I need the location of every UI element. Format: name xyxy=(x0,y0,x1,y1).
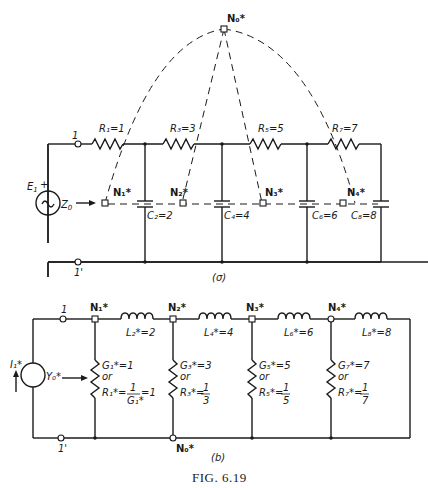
conductance-g3 xyxy=(169,360,177,398)
svg-text:G₃*=3: G₃*=3 xyxy=(180,360,212,371)
capacitor-c2-label: C₂=2 xyxy=(147,210,173,221)
svg-text:R₅*=: R₅*= xyxy=(259,387,283,398)
node-n0-b-label: N₀* xyxy=(176,443,195,454)
dual-node-n3-label: N₃* xyxy=(265,187,284,198)
dual-node-n0-label: N₀* xyxy=(227,13,246,24)
dual-node-n1-label: N₁* xyxy=(113,187,132,198)
terminal-1-b xyxy=(60,316,66,322)
figure-6-19: 1 1' E1 + Z0 N₀* N₁* N₂* N₃* xyxy=(0,0,428,488)
dual-node-n0-a xyxy=(221,26,227,32)
node-n2-b-label: N₂* xyxy=(168,302,187,313)
branch-label-g3: G₃*=3 or R₃*= 1 3 xyxy=(180,360,212,406)
capacitor-c6-label: C₆=6 xyxy=(312,210,338,221)
dual-node-n3-a xyxy=(260,200,266,206)
node-n4-b-label: N₄* xyxy=(328,302,347,313)
inductor-l4-label: L₄*=4 xyxy=(204,327,233,338)
svg-text:G₇*=7: G₇*=7 xyxy=(338,360,370,371)
capacitor-c8-label: C₈=8 xyxy=(351,210,377,221)
inductor-l4 xyxy=(199,313,231,319)
dual-node-n4-a xyxy=(340,200,346,206)
resistor-r1 xyxy=(92,139,123,149)
circuit-b-label: (b) xyxy=(211,452,225,463)
node-n0-b xyxy=(170,435,176,441)
circuit-b: 1 1' N₁* N₂* N₃* N₄* N₀* L₂*=2 L₄*=4 L₆*… xyxy=(10,302,410,463)
node-n1-b-label: N₁* xyxy=(90,302,109,313)
svg-text:=1: =1 xyxy=(141,387,156,398)
resistor-r7-label: R₇=7 xyxy=(332,123,358,134)
svg-text:G₅*=5: G₅*=5 xyxy=(259,360,291,371)
impedance-z0-label: Z0 xyxy=(60,199,73,212)
svg-text:1: 1 xyxy=(283,382,289,393)
branch-label-g1: G₁*=1 or R₁*= 1 G₁* =1 xyxy=(102,360,156,406)
svg-text:1: 1 xyxy=(362,382,368,393)
inductor-l6 xyxy=(278,313,310,319)
current-source-i1 xyxy=(21,363,45,387)
resistor-r3-label: R₃=3 xyxy=(170,123,196,134)
node-n1-b xyxy=(92,316,98,322)
resistor-r5-label: R₅=5 xyxy=(258,123,284,134)
circuit-a: 1 1' E1 + Z0 N₀* N₁* N₂* N₃* xyxy=(27,13,428,283)
svg-text:or: or xyxy=(180,371,191,382)
terminal-1prime-b xyxy=(58,435,64,441)
inductor-l8 xyxy=(355,313,387,319)
inductor-l2-label: L₂*=2 xyxy=(126,327,155,338)
inductor-l6-label: L₆*=6 xyxy=(284,327,313,338)
branch-label-g7: G₇*=7 or R₇*= 1 7 xyxy=(338,360,370,406)
svg-text:5: 5 xyxy=(283,395,289,406)
svg-text:R₃*=: R₃*= xyxy=(180,387,204,398)
svg-text:R₁*=: R₁*= xyxy=(102,387,126,398)
dual-node-n2-label: N₂* xyxy=(170,187,189,198)
branch-label-g5: G₅*=5 or R₅*= 1 5 xyxy=(259,360,291,406)
resistor-r5 xyxy=(250,139,281,149)
source-polarity-plus: + xyxy=(40,179,48,190)
node-n3-b xyxy=(249,316,255,322)
svg-text:1: 1 xyxy=(203,382,209,393)
conductance-g1 xyxy=(91,360,99,398)
svg-text:1: 1 xyxy=(130,382,136,393)
node-n2-b xyxy=(170,316,176,322)
admittance-y0-label: Y₀* xyxy=(46,371,61,382)
conductance-g7 xyxy=(327,360,335,398)
svg-text:R₇*=: R₇*= xyxy=(338,387,362,398)
source-e1-label: E1 xyxy=(27,181,38,194)
dual-node-n1-a xyxy=(102,200,108,206)
conductance-g5 xyxy=(248,360,256,398)
svg-text:or: or xyxy=(102,371,113,382)
terminal-1-b-label: 1 xyxy=(61,304,67,315)
inductor-l8-label: L₈*=8 xyxy=(362,327,391,338)
inductor-l2 xyxy=(121,313,153,319)
dual-graph-construction xyxy=(105,29,378,204)
resistor-r7 xyxy=(328,139,359,149)
dual-node-n4-label: N₄* xyxy=(347,187,366,198)
terminal-1prime-b-label: 1' xyxy=(58,443,67,454)
terminal-1prime-a xyxy=(75,259,81,265)
svg-text:or: or xyxy=(259,371,270,382)
capacitor-c4-label: C₄=4 xyxy=(224,210,250,221)
resistor-r1-label: R₁=1 xyxy=(99,123,125,134)
svg-text:or: or xyxy=(338,371,349,382)
dual-node-n2-a xyxy=(180,200,186,206)
terminal-1prime-a-label: 1' xyxy=(74,267,83,278)
node-n3-b-label: N₃* xyxy=(246,302,265,313)
terminal-1-a xyxy=(75,141,81,147)
circuit-a-label: (σ) xyxy=(212,272,226,283)
svg-text:7: 7 xyxy=(362,395,369,406)
svg-text:G₁*=1: G₁*=1 xyxy=(102,360,134,371)
current-source-i1-label: I₁* xyxy=(10,359,22,370)
figure-caption: FIG. 6.19 xyxy=(192,470,247,485)
terminal-1-a-label: 1 xyxy=(72,130,78,141)
node-n4-b xyxy=(328,316,334,322)
resistor-r3 xyxy=(163,139,194,149)
svg-text:3: 3 xyxy=(203,395,209,406)
